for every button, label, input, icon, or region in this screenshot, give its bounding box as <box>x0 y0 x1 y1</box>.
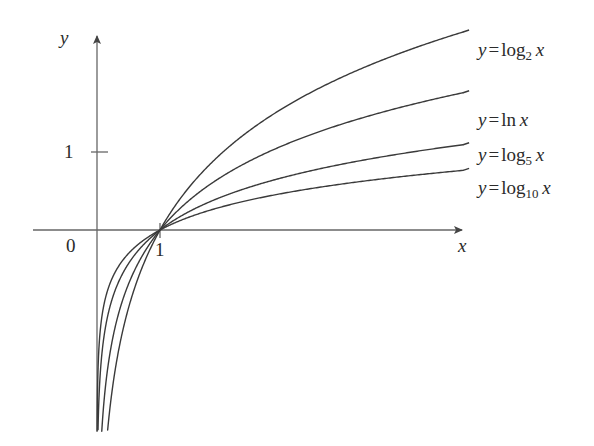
x-axis-label: x <box>458 236 466 255</box>
curve-fn-ln: ln <box>501 109 516 130</box>
plot-canvas <box>0 0 594 446</box>
curve-equals-log10: = <box>486 177 501 198</box>
curve-arg-ln: x <box>520 109 528 130</box>
logarithm-graph-figure: y x 1 0 1 y=log2 x y=ln x y=log5 x y=log… <box>0 0 594 446</box>
origin-label: 0 <box>66 236 76 255</box>
curve-arg-log10: x <box>542 177 550 198</box>
curve-log10 <box>97 170 463 430</box>
curve-log2 <box>108 32 463 430</box>
curve-base-log10: 10 <box>525 186 538 201</box>
curve-equals-ln: = <box>486 109 501 130</box>
curve-log5 <box>98 145 463 430</box>
curve-equals-log2: = <box>486 39 501 60</box>
curve-fn-log5: log <box>501 144 525 165</box>
x-tick-label-1: 1 <box>155 240 165 259</box>
y-tick-label-1: 1 <box>64 142 74 161</box>
curve-label-log10: y=log10 x <box>478 178 551 201</box>
leader-log2 <box>463 30 469 32</box>
leader-log10 <box>463 168 469 170</box>
leader-log5 <box>463 143 469 145</box>
curve-label-log2: y=log2 x <box>478 40 544 63</box>
leader-ln <box>463 91 469 93</box>
y-axis-label: y <box>60 28 68 47</box>
curve-ln <box>102 93 463 432</box>
curve-fn-log2: log <box>501 39 525 60</box>
curve-fn-log10: log <box>501 177 525 198</box>
curve-label-log5: y=log5 x <box>478 145 544 168</box>
curve-base-log2: 2 <box>525 48 531 63</box>
curve-arg-log2: x <box>536 39 544 60</box>
curve-base-log5: 5 <box>525 153 531 168</box>
curve-equals-log5: = <box>486 144 501 165</box>
curve-label-ln: y=ln x <box>478 110 528 129</box>
curve-arg-log5: x <box>536 144 544 165</box>
